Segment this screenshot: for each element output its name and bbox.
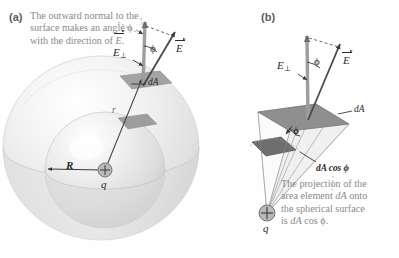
point-charge-b — [259, 205, 275, 221]
label-q-b: q — [263, 222, 269, 234]
physics-figure: (a) The outward normal to the surface ma… — [0, 0, 399, 258]
panel-b-letter: (b) — [261, 11, 275, 23]
inner-sphere-highlight — [69, 136, 103, 160]
dashed-tip-connector-b — [309, 38, 339, 47]
label-E-vector-b: E — [343, 54, 350, 66]
label-phi-solid-b: ϕ — [293, 126, 299, 136]
panel-b-caption-line2-pre: area element — [281, 190, 335, 201]
label-phi-a: ϕ — [150, 42, 156, 54]
label-dA-cos-phi-b: dA cos ϕ — [316, 163, 349, 173]
dA-leader-b — [338, 111, 352, 114]
panel-a-caption-line2: surface makes an angle ϕ — [30, 22, 133, 33]
panel-b-caption-dA-1: dA — [335, 190, 346, 201]
panel-a-letter: (a) — [9, 11, 22, 23]
panel-b-caption-line1: The projection of the — [281, 178, 367, 189]
point-charge-a — [98, 163, 112, 177]
E-perpendicular-arrow-b — [307, 36, 308, 120]
panel-b-caption-line2-post: onto — [347, 190, 368, 201]
label-E-perp-b: E⊥ — [277, 59, 291, 73]
panel-b-caption-dA-2: dA — [290, 215, 301, 226]
panel-b-caption: The projection of the area element dA on… — [281, 178, 399, 228]
panel-a-caption-line3-pre: with the direction of — [30, 35, 115, 46]
label-E-perp-sub-a: ⊥ — [120, 51, 127, 60]
label-E-perp-a: E⊥ — [113, 46, 127, 60]
label-R-a: R — [66, 159, 73, 171]
label-dA-b: dA — [354, 104, 364, 114]
panel-a-caption-line3-post: . — [122, 35, 125, 46]
label-E-perp-sub-b: ⊥ — [284, 64, 291, 73]
label-q-a: q — [101, 178, 107, 190]
panel-b-caption-line4-pre: is — [281, 215, 290, 226]
E-perp-pointer-b — [298, 74, 307, 80]
panel-b-caption-line3: the spherical surface — [281, 203, 365, 214]
label-dA-a: dA — [148, 77, 158, 87]
label-r-a: r — [112, 105, 116, 115]
panel-a-caption: The outward normal to the surface makes … — [30, 10, 155, 47]
panel-b-caption-line4-post: cos ϕ. — [302, 215, 329, 226]
label-phi-b: ϕ — [314, 55, 320, 67]
label-E-vector-a: E — [176, 42, 183, 54]
panel-a-caption-line1: The outward normal to the — [30, 10, 139, 21]
